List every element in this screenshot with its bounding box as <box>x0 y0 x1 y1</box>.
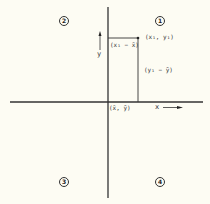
y-deviation-label: (y₁ − ȳ) <box>144 66 173 73</box>
quadrant-2-marker: 2 <box>59 16 69 26</box>
quadrant-1-marker: 1 <box>155 16 165 26</box>
x-deviation-label: (x₁ − x̄) <box>110 41 139 48</box>
data-point-marker <box>137 37 140 40</box>
mean-origin-label: (x̄, ȳ) <box>109 104 131 111</box>
axes-and-deviation-lines <box>0 0 210 204</box>
quadrant-4-marker: 4 <box>155 177 165 187</box>
x-axis-label: x <box>155 103 159 111</box>
quadrant-3-marker: 3 <box>59 177 69 187</box>
y-arrow-icon <box>99 31 102 50</box>
point-label: (x₁, y₁) <box>145 33 174 40</box>
diagram-canvas: 2 1 3 4 y x (x₁, y₁) (x₁ − x̄) (y₁ − ȳ) … <box>0 0 210 204</box>
y-axis-label: y <box>97 50 101 58</box>
x-arrow-icon <box>163 106 183 109</box>
